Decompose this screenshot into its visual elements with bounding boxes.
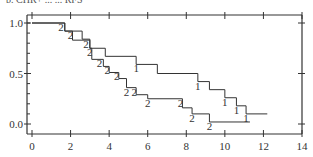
x-tick-label: 4 <box>106 140 112 152</box>
censor-mark-group-2: 2 <box>87 46 93 58</box>
censor-mark-group-1: 1 <box>222 96 228 108</box>
x-tick-label: 10 <box>219 140 231 152</box>
censor-mark-group-2: 2 <box>104 64 110 76</box>
x-tick-label: 6 <box>145 140 151 152</box>
x-tick-label: 8 <box>184 140 190 152</box>
x-tick-label: 2 <box>68 140 74 152</box>
censor-mark-group-2: 2 <box>145 97 151 109</box>
censor-mark-group-2: 2 <box>189 112 195 124</box>
censor-mark-group-2: 2 <box>97 57 103 69</box>
x-tick-label: 12 <box>258 140 269 152</box>
y-tick-label: 0.5 <box>9 68 23 80</box>
censor-mark-group-1: 1 <box>133 62 139 74</box>
censor-mark-group-2: 2 <box>114 70 120 82</box>
y-tick-label: 1.0 <box>9 17 23 29</box>
censor-mark-group-2: 2 <box>68 29 74 41</box>
censor-marks: 111112222222222222 <box>58 21 249 132</box>
censor-mark-group-2: 2 <box>58 21 64 33</box>
censor-mark-group-1: 1 <box>243 112 249 124</box>
censor-mark-group-2: 2 <box>124 86 130 98</box>
censor-mark-group-2: 2 <box>178 97 184 109</box>
censor-mark-group-2: 2 <box>207 120 213 132</box>
x-tick-label: 14 <box>297 140 309 152</box>
y-tick-label: 0.0 <box>9 118 23 130</box>
x-tick-label: 0 <box>29 140 35 152</box>
censor-mark-group-2: 2 <box>131 86 137 98</box>
km-chart: 024681012140.00.51.0 111112222222222222 <box>0 0 313 157</box>
censor-mark-group-1: 1 <box>195 80 201 92</box>
axes: 024681012140.00.51.0 <box>9 12 308 152</box>
km-curve-group-2 <box>32 23 250 122</box>
censor-mark-group-1: 1 <box>234 104 240 116</box>
